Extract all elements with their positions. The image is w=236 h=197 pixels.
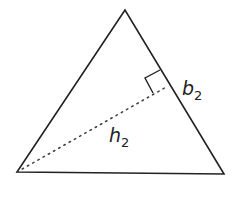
- right-angle-marker: [145, 70, 160, 93]
- triangle-diagram: b2 h2: [0, 0, 236, 197]
- altitude-line: [17, 86, 168, 172]
- base-label: b2: [182, 77, 202, 103]
- height-label: h2: [109, 124, 129, 150]
